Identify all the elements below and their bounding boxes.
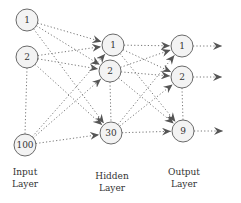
connection-arrow xyxy=(36,135,99,144)
node-label: 1 xyxy=(24,15,30,25)
node-label: 2 xyxy=(107,66,113,76)
node-label: 100 xyxy=(16,140,33,150)
layer-ellipsis-line xyxy=(110,82,111,122)
hidden-layer-label: Hidden Layer xyxy=(87,170,137,194)
node-label: 9 xyxy=(180,126,186,136)
node-label: 30 xyxy=(105,128,117,138)
output-layer-label: Output Layer xyxy=(159,166,209,190)
connections xyxy=(25,23,223,143)
node-label: 2 xyxy=(24,52,30,62)
connection-arrow xyxy=(35,64,102,125)
nodes: 121001230129 xyxy=(14,9,194,156)
layer-ellipsis-line xyxy=(25,68,27,134)
output-node-1: 1 xyxy=(171,35,193,57)
input-layer-label-line2: Layer xyxy=(0,178,50,190)
input-layer-label: Input Layer xyxy=(0,166,50,190)
input-node-100: 100 xyxy=(14,134,36,156)
input-layer-label-line1: Input xyxy=(0,166,50,178)
input-node-2: 2 xyxy=(16,46,38,68)
connection-arrow xyxy=(120,54,175,122)
connection-arrow xyxy=(33,79,101,138)
connection-arrow xyxy=(120,50,170,67)
input-node-1: 1 xyxy=(16,9,38,31)
node-label: 2 xyxy=(179,72,185,82)
connection-arrow xyxy=(124,45,170,46)
connection-arrow xyxy=(32,54,105,137)
connection-arrow xyxy=(38,23,102,42)
hidden-node-1: 1 xyxy=(102,34,124,56)
connection-arrow xyxy=(120,84,173,126)
output-layer-label-line2: Layer xyxy=(159,178,209,190)
hidden-node-2: 2 xyxy=(99,60,121,82)
hidden-layer-label-line2: Layer xyxy=(87,182,137,194)
connection-arrow xyxy=(122,131,171,132)
connection-arrow xyxy=(118,78,173,123)
connection-arrow xyxy=(38,47,101,56)
layer-ellipsis-line xyxy=(182,88,183,120)
output-node-9: 9 xyxy=(172,120,194,142)
hidden-node-30: 30 xyxy=(100,122,122,144)
output-layer-label-line1: Output xyxy=(159,166,209,178)
hidden-layer-label-line1: Hidden xyxy=(87,170,137,182)
connection-arrow xyxy=(121,72,170,76)
node-label: 1 xyxy=(110,40,116,50)
node-label: 1 xyxy=(179,41,185,51)
connection-arrow xyxy=(34,29,104,124)
connection-arrow xyxy=(38,59,98,69)
output-node-2: 2 xyxy=(171,66,193,88)
